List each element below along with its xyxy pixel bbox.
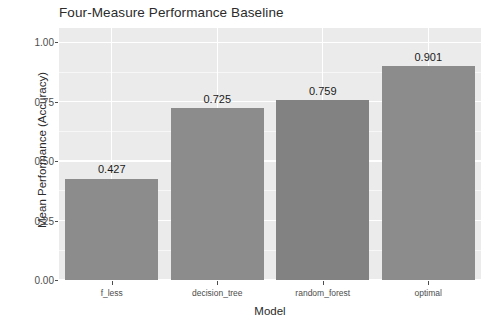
x-tick-label-decision_tree: decision_tree: [192, 288, 243, 298]
x-axis-title: Model: [59, 305, 481, 317]
y-tick-label-0.50: 0.50: [20, 156, 54, 167]
y-tick-mark: [55, 102, 58, 103]
y-tick-mark: [55, 42, 58, 43]
bar-f_less[interactable]: [65, 179, 158, 281]
x-tick-label-optimal: optimal: [415, 288, 442, 298]
plot-panel: [59, 28, 481, 280]
x-tick-mark: [217, 281, 218, 285]
gridline-major-horizontal: [59, 42, 481, 43]
bar-value-label-optimal: 0.901: [414, 51, 442, 63]
bar-value-label-random_forest: 0.759: [309, 85, 337, 97]
y-tick-label-1.00: 1.00: [20, 37, 54, 48]
bar-optimal[interactable]: [382, 66, 475, 280]
x-tick-mark: [112, 281, 113, 285]
y-tick-label-0.00: 0.00: [20, 275, 54, 286]
x-tick-label-f_less: f_less: [101, 288, 123, 298]
y-axis-tick-labels: 0.000.250.500.751.00: [20, 0, 54, 327]
y-tick-mark: [55, 161, 58, 162]
bar-decision_tree[interactable]: [171, 108, 264, 280]
y-tick-label-0.75: 0.75: [20, 96, 54, 107]
chart-figure: Four-Measure Performance Baseline Mean P…: [0, 0, 501, 327]
x-tick-mark: [323, 281, 324, 285]
bar-value-label-decision_tree: 0.725: [203, 93, 231, 105]
x-tick-label-random_forest: random_forest: [295, 288, 350, 298]
y-tick-mark: [55, 221, 58, 222]
bar-random_forest[interactable]: [276, 100, 369, 280]
bar-value-label-f_less: 0.427: [98, 163, 126, 175]
y-tick-mark: [55, 280, 58, 281]
x-tick-mark: [428, 281, 429, 285]
chart-title: Four-Measure Performance Baseline: [59, 5, 284, 20]
y-tick-label-0.25: 0.25: [20, 215, 54, 226]
